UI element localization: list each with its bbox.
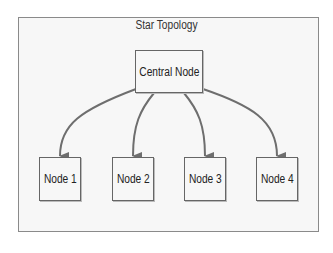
edge-central-node3 bbox=[184, 93, 205, 156]
node-4: Node 4 bbox=[256, 157, 298, 201]
central-node-label: Central Node bbox=[139, 65, 199, 79]
node-4-label: Node 4 bbox=[261, 172, 294, 186]
edge-central-node4 bbox=[203, 89, 277, 156]
edge-central-node2 bbox=[133, 93, 154, 156]
edge-central-node1 bbox=[60, 89, 136, 156]
node-2: Node 2 bbox=[112, 157, 154, 201]
node-2-label: Node 2 bbox=[117, 172, 150, 186]
edges-layer bbox=[0, 0, 333, 253]
node-3-label: Node 3 bbox=[189, 172, 222, 186]
node-1-label: Node 1 bbox=[44, 172, 77, 186]
node-1: Node 1 bbox=[39, 157, 81, 201]
central-node: Central Node bbox=[135, 50, 203, 93]
node-3: Node 3 bbox=[184, 157, 226, 201]
